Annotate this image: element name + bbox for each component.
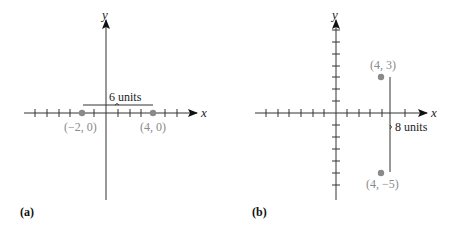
panel-b-point2-label: (4, −5)	[366, 178, 399, 190]
panel-b-axes	[255, 20, 427, 200]
point-b1	[378, 74, 384, 80]
panel-a-point1-label: (−2, 0)	[64, 121, 97, 133]
panel-b-distance-label: 8 units	[395, 121, 427, 133]
panel-b-point1-label: (4, 3)	[370, 59, 396, 71]
panel-a-distance-label: 6 units	[109, 91, 141, 103]
point-a1	[79, 110, 85, 116]
diagram-canvas	[0, 0, 451, 230]
panel-a-caption: (a)	[20, 206, 34, 218]
panel-b-caption: (b)	[252, 206, 267, 218]
panel-a-x-axis-label: x	[201, 106, 207, 119]
point-a2	[150, 110, 156, 116]
panel-b-distance-bracket	[390, 77, 392, 172]
panel-a-point2-label: (4, 0)	[140, 121, 166, 133]
panel-b-y-axis-label: y	[332, 8, 338, 21]
point-b2	[378, 170, 384, 176]
panel-b-x-axis-label: x	[431, 106, 437, 119]
panel-a-y-axis-label: y	[102, 8, 108, 21]
panel-a-axes	[24, 20, 197, 200]
